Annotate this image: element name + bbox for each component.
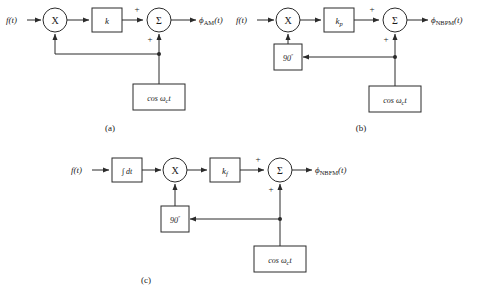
figure-canvas: f(t) X k + Σ ϕAM(t) + cos ωct (a)	[0, 0, 482, 287]
multiplier-label-b: X	[284, 15, 292, 26]
panel-b: f(t) X kp + Σ ϕNBPM(t) + 90º cos ωct	[236, 4, 463, 133]
panel-c: f(t) ∫ dt X kf + Σ ϕNBFM(t) + 90º	[71, 154, 347, 285]
sign-bottom-b: +	[383, 34, 388, 44]
panel-caption-c: (c)	[141, 275, 151, 285]
block-diagram-figure: f(t) X k + Σ ϕAM(t) + cos ωct (a)	[0, 0, 482, 287]
carrier-label-b: cos ωct	[383, 96, 407, 106]
panel-a: f(t) X k + Σ ϕAM(t) + cos ωct (a)	[6, 4, 223, 133]
integrator-label-c: ∫ dt	[121, 167, 133, 176]
summer-label-a: Σ	[156, 15, 162, 26]
multiplier-label-a: X	[51, 15, 59, 26]
carrier-label-c: cos ωct	[268, 256, 292, 266]
panel-caption-b: (b)	[356, 123, 367, 133]
panel-caption-a: (a)	[105, 123, 115, 133]
output-label-a: ϕAM(t)	[199, 15, 223, 26]
summer-label-b: Σ	[392, 15, 398, 26]
sign-bottom-c: +	[268, 184, 273, 194]
summer-label-c: Σ	[277, 165, 283, 176]
output-label-b: ϕNBPM(t)	[431, 15, 463, 26]
sign-top-c: +	[255, 154, 260, 164]
input-label-b: f(t)	[236, 15, 247, 25]
sign-bottom-a: +	[147, 34, 152, 44]
sign-top-a: +	[134, 4, 139, 14]
sign-top-b: +	[369, 4, 374, 14]
carrier-label-a: cos ωct	[147, 94, 171, 104]
output-label-c: ϕNBFM(t)	[315, 165, 347, 176]
input-label-a: f(t)	[6, 15, 17, 25]
multiplier-label-c: X	[171, 165, 179, 176]
input-label-c: f(t)	[71, 165, 82, 175]
